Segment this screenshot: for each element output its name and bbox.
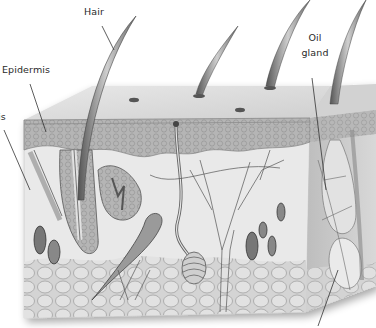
blood-vessel bbox=[246, 232, 258, 260]
fat-layer bbox=[24, 256, 306, 318]
label-dermis: is bbox=[0, 111, 6, 122]
skin-diagram: Hair Epidermis is Oil gland bbox=[0, 0, 376, 328]
label-epidermis: Epidermis bbox=[2, 64, 50, 75]
skin-surface bbox=[24, 86, 330, 120]
blood-vessel bbox=[34, 226, 46, 254]
blood-vessel bbox=[48, 240, 60, 264]
leader-hair bbox=[102, 26, 114, 50]
label-hair: Hair bbox=[84, 6, 104, 17]
skin-block bbox=[24, 84, 376, 318]
label-oil-gland-line1: Oil bbox=[300, 32, 330, 43]
label-oil-gland-line2: gland bbox=[296, 47, 334, 58]
